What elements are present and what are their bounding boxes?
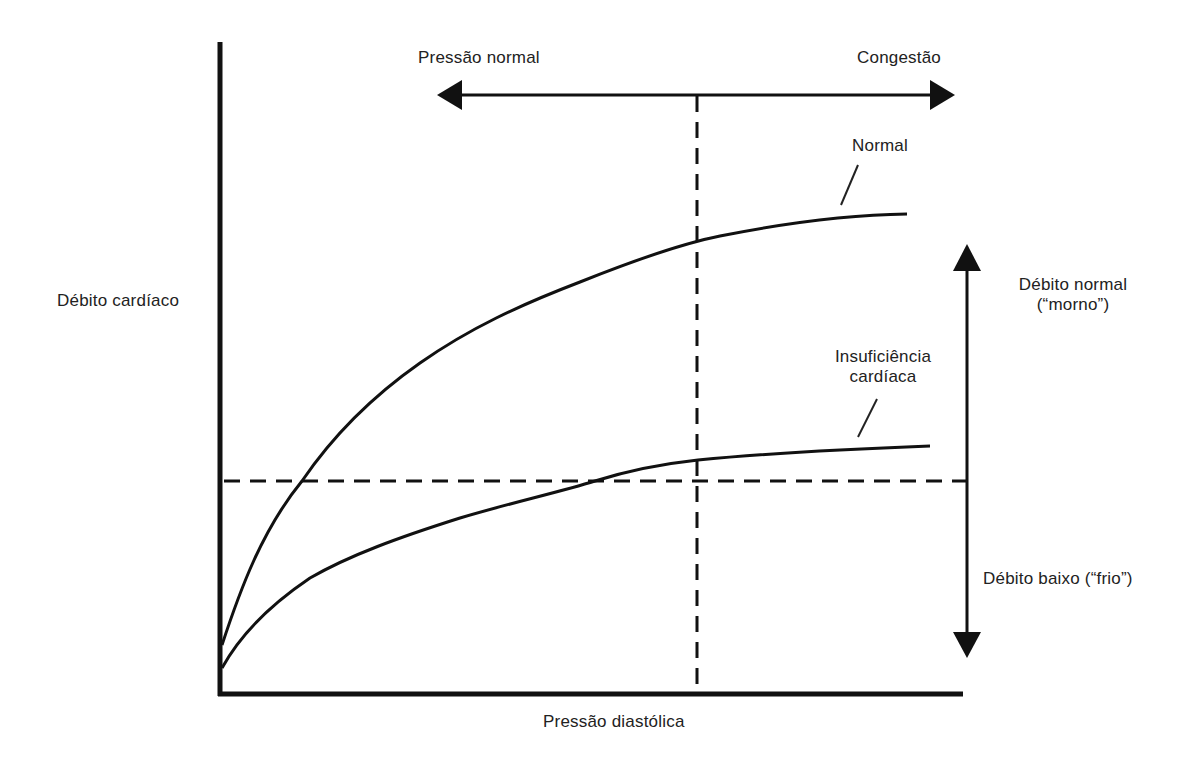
arrow-down-icon [953, 632, 981, 658]
heart-failure-curve [222, 446, 930, 668]
heart-failure-curve-label: Insuficiência cardíaca [813, 347, 953, 387]
heart-failure-label-line2: cardíaca [813, 367, 953, 387]
heart-failure-label-leader [858, 399, 877, 437]
congestion-label: Congestão [857, 48, 941, 68]
normal-output-label-line2: (“morno”) [998, 295, 1148, 315]
x-axis-label: Pressão diastólica [543, 712, 685, 732]
arrow-left-icon [437, 80, 462, 110]
cardiac-function-diagram [0, 0, 1194, 761]
y-axis-label: Débito cardíaco [57, 291, 179, 311]
normal-curve [222, 214, 907, 645]
low-output-label: Débito baixo (“frio”) [983, 569, 1133, 589]
arrow-right-icon [930, 80, 955, 110]
heart-failure-label-line1: Insuficiência [813, 347, 953, 367]
normal-output-label-line1: Débito normal [998, 275, 1148, 295]
normal-output-label: Débito normal (“morno”) [998, 275, 1148, 315]
normal-pressure-label: Pressão normal [418, 48, 540, 68]
arrow-up-icon [953, 244, 981, 271]
output-double-arrow [953, 244, 981, 658]
normal-label-leader [841, 165, 858, 205]
normal-curve-label: Normal [852, 136, 908, 156]
